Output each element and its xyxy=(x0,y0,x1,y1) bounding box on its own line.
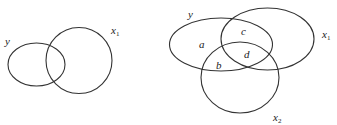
set-x1-circle xyxy=(46,28,112,94)
set-x1-ellipse xyxy=(221,8,314,70)
set-label-y: y xyxy=(4,35,10,47)
set-label-x1: x1 xyxy=(110,24,120,38)
region-label-b: b xyxy=(216,59,222,71)
region-label-a: a xyxy=(199,38,205,50)
region-label-d: d xyxy=(244,48,250,60)
set-label-y: y xyxy=(187,8,193,20)
set-label-x1: x1 xyxy=(321,28,331,42)
region-label-c: c xyxy=(241,25,246,37)
three-set-venn-diagram: yx1x2acdb xyxy=(170,8,331,125)
set-x2-circle xyxy=(201,42,279,113)
set-label-x2: x2 xyxy=(272,111,282,125)
two-set-venn-diagram: yx1 xyxy=(4,24,120,94)
venn-diagrams: yx1 yx1x2acdb xyxy=(0,0,337,125)
set-y-ellipse xyxy=(8,43,65,86)
